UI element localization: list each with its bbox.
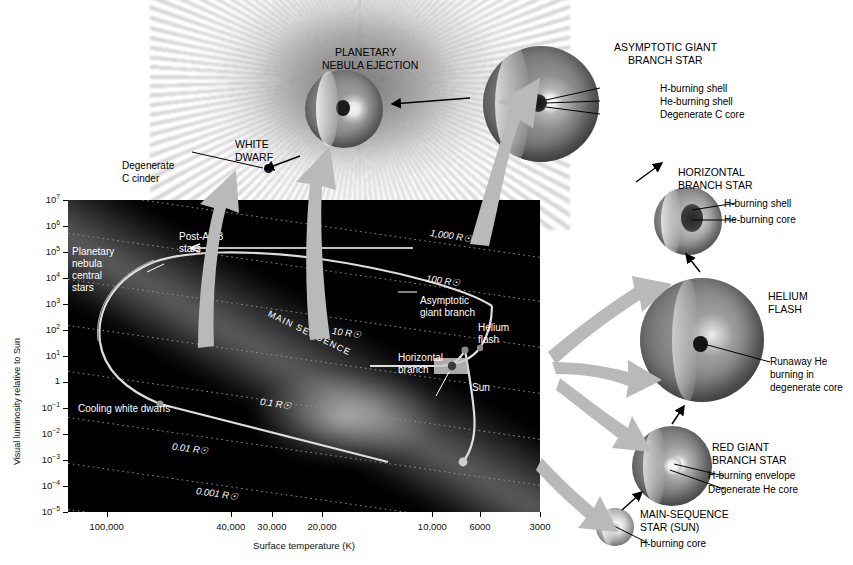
post-agb-label-line1: Post-AGB	[179, 231, 223, 243]
x-tick-label: 20,000	[307, 521, 336, 532]
y-tick-mark	[63, 434, 68, 435]
y-tick-mark	[63, 278, 68, 279]
x-tick-mark	[540, 512, 541, 517]
white-dwarf-dot	[264, 164, 273, 173]
helium-flash-label-line2: flash	[478, 334, 499, 346]
pn-central-label-line2: nebula	[72, 258, 102, 270]
y-tick-label: 10−4	[20, 479, 60, 491]
x-tick-label: 100,000	[90, 521, 124, 532]
red-giant-title-line1: RED GIANT	[712, 441, 769, 454]
post-agb-label-line2: stars	[179, 243, 201, 255]
flow-arrow-to-red-giant	[556, 378, 652, 452]
red-giant-core	[664, 457, 682, 475]
y-tick-label: 1	[20, 375, 60, 386]
arrow-heflash-to-hb	[686, 254, 700, 272]
agb-title-line2: BRANCH STAR	[628, 54, 702, 67]
y-tick-label: 106	[20, 219, 60, 231]
y-tick-mark	[63, 382, 68, 383]
agb-label-line2: giant branch	[420, 307, 475, 319]
helium-flash-point	[461, 346, 468, 353]
x-tick-mark	[272, 512, 273, 517]
x-tick-mark	[432, 512, 433, 517]
hb-lead-h-burning-shell: H-burning shell	[724, 198, 791, 210]
planetary-nebula-title-line1: PLANETARY	[335, 46, 396, 59]
y-tick-label: 104	[20, 271, 60, 283]
pn-central-label-line1: Planetary	[72, 246, 114, 258]
horizontal-branch-point	[448, 362, 456, 370]
x-tick-label: 30,000	[257, 521, 286, 532]
planetary-nebula-title-line2: NEBULA EJECTION	[322, 59, 418, 72]
arrow-rgb-to-heflash	[672, 406, 684, 424]
helium-flash-lead-line3: degenerate core	[770, 382, 843, 394]
agb-title-line1: ASYMPTOTIC GIANT	[614, 41, 717, 54]
y-tick-label: 10−2	[20, 427, 60, 439]
hb-lead-he-burning-core: He-burning core	[724, 214, 796, 226]
horizontal-branch-label-line1: Horizontal	[398, 352, 443, 364]
main-sequence-title-line2: STAR (SUN)	[640, 521, 699, 534]
x-tick-mark	[107, 512, 108, 517]
post-agb-arrow	[190, 244, 413, 252]
y-tick-mark	[63, 252, 68, 253]
agb-lead-degenerate-c-core: Degenerate C core	[660, 109, 745, 121]
red-giant-title-line2: BRANCH STAR	[712, 454, 786, 467]
y-tick-mark	[63, 330, 68, 331]
y-axis-title: Visual luminosity relative to Sun	[12, 285, 22, 465]
x-tick-label: 40,000	[216, 521, 245, 532]
y-tick-mark	[63, 226, 68, 227]
rgb-lead-h-burning-envelope: H-burning envelope	[708, 470, 795, 482]
agb-lead-h-burning-shell: H-burning shell	[660, 83, 727, 95]
x-tick-label: 3000	[529, 521, 550, 532]
sun-label: Sun	[472, 382, 490, 394]
horizontal-branch-title-line1: HORIZONTAL	[678, 166, 745, 179]
diagram-canvas: MAIN SEQUENCE	[0, 0, 853, 565]
y-tick-mark	[63, 304, 68, 305]
white-dwarf-lead-line1: Degenerate	[122, 160, 174, 172]
y-tick-label: 103	[20, 297, 60, 309]
agb-lead-he-burning-shell: He-burning shell	[660, 96, 733, 108]
x-tick-mark	[231, 512, 232, 517]
post-agb-point	[307, 253, 317, 262]
horizontal-branch-core	[681, 204, 703, 232]
ms-lead-h-burning-core: H-burning core	[640, 538, 706, 550]
y-tick-label: 101	[20, 349, 60, 361]
rgb-lead-degenerate-he-core: Degenerate He core	[708, 484, 798, 496]
main-sequence-title-line1: MAIN-SEQUENCE	[640, 508, 729, 521]
y-tick-mark	[63, 408, 68, 409]
constant-radius-gridlines	[58, 188, 558, 565]
pn-central-label-line3: central	[72, 270, 102, 282]
x-tick-mark	[480, 512, 481, 517]
arrow-hb-to-agb	[636, 163, 662, 182]
helium-flash-title-line1: HELIUM	[768, 290, 808, 303]
agb-label-line1: Asymptotic	[420, 295, 469, 307]
planetary-nebula-star-core	[336, 100, 350, 116]
white-dwarf-title-line2: DWARF	[235, 151, 273, 164]
white-dwarf-lead-line2: C cinder	[122, 173, 159, 185]
pn-central-label-line4: stars	[72, 282, 94, 294]
evolutionary-track-highlight	[97, 260, 154, 341]
y-tick-mark	[63, 512, 68, 513]
y-tick-label: 102	[20, 323, 60, 335]
plot-leader-lines	[147, 264, 449, 396]
main-sequence-star-core	[611, 523, 620, 532]
planetary-nebula-star-cutaway	[316, 71, 338, 147]
hr-plot-vector-layer	[68, 200, 540, 512]
y-tick-mark	[63, 460, 68, 461]
horizontal-branch-title-line2: BRANCH STAR	[678, 179, 752, 192]
helium-flash-lead-line1: Runaway He	[770, 356, 827, 368]
helium-flash-title-line2: FLASH	[768, 303, 802, 316]
x-axis-title: Surface temperature (K)	[68, 540, 540, 551]
y-tick-label: 10−1	[20, 401, 60, 413]
x-tick-mark	[322, 512, 323, 517]
agb-star-core	[529, 94, 547, 112]
helium-flash-core	[693, 336, 708, 352]
horizontal-branch-label-line2: branch	[398, 364, 429, 376]
y-tick-mark	[63, 200, 68, 201]
helium-flash-lead-line2: burning in	[770, 369, 814, 381]
white-dwarf-title-line1: WHITE	[235, 138, 269, 151]
y-tick-label: 105	[20, 245, 60, 257]
agb-point	[477, 345, 483, 351]
y-tick-mark	[63, 486, 68, 487]
y-tick-label: 107	[20, 193, 60, 205]
y-tick-label: 10−3	[20, 453, 60, 465]
cooling-white-dwarfs-label: Cooling white dwarfs	[78, 403, 170, 415]
